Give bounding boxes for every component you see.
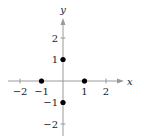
x-axis-label: x xyxy=(127,76,133,87)
y-tick-label: 2 xyxy=(52,33,58,44)
x-axis-arrow xyxy=(117,79,124,84)
data-point xyxy=(82,78,87,83)
x-tick-label: 2 xyxy=(103,86,109,97)
y-axis-label: y xyxy=(59,4,66,15)
y-axis-arrow xyxy=(61,18,66,25)
y-tick-label: −2 xyxy=(43,119,58,130)
chart: −2−112−2−112 x y xyxy=(0,0,144,136)
axes xyxy=(8,18,124,136)
data-point xyxy=(60,57,65,62)
data-point xyxy=(39,78,44,83)
y-tick-label: −1 xyxy=(43,97,58,108)
y-tick-label: 1 xyxy=(52,54,58,65)
x-tick-label: 1 xyxy=(81,86,87,97)
x-tick-label: −2 xyxy=(13,86,28,97)
x-tick-label: −1 xyxy=(34,86,49,97)
data-point xyxy=(60,100,65,105)
